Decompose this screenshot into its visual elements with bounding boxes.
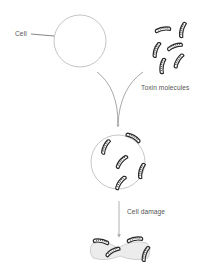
healthy-cell <box>54 15 106 67</box>
toxin-cluster <box>152 22 187 74</box>
toxin-molecules-label: Toxin molecules <box>141 84 189 91</box>
cell-label: Cell <box>15 30 27 37</box>
cell-label-leader-line <box>31 34 54 36</box>
merge-arrow <box>97 72 143 126</box>
cell-damage-label: Cell damage <box>127 208 165 215</box>
damaged-cell <box>90 236 150 262</box>
cell-with-toxins <box>91 132 146 191</box>
cell-toxin-diagram <box>0 0 219 275</box>
